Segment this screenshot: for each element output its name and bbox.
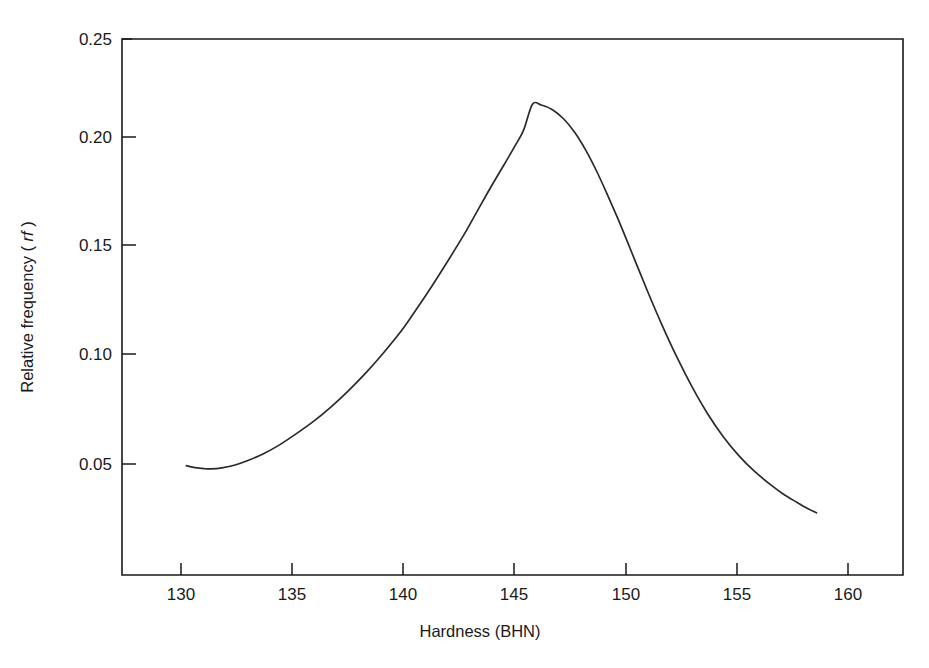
y-tick-label-0.10: 0.10 (79, 345, 112, 364)
y-tick-label-0.15: 0.15 (79, 236, 112, 255)
x-tick-label-140: 140 (389, 585, 417, 604)
y-tick-label-0.20: 0.20 (79, 128, 112, 147)
relative-frequency-chart: 0.25 0.20 0.15 0.10 0.05 130 135 140 145… (0, 0, 929, 668)
x-axis-title: Hardness (BHN) (419, 622, 540, 640)
y-axis-title: Relative frequency ( rf ) (18, 221, 36, 393)
frequency-distribution-curve (186, 102, 816, 512)
x-tick-label-160: 160 (834, 585, 862, 604)
y-tick-label-0.25: 0.25 (79, 30, 112, 49)
y-axis-tick-labels: 0.25 0.20 0.15 0.10 0.05 (79, 30, 112, 474)
y-axis-title-paren-open: ( (18, 246, 36, 252)
x-tick-label-155: 155 (723, 585, 751, 604)
figure-container: 0.25 0.20 0.15 0.10 0.05 130 135 140 145… (0, 0, 929, 668)
plot-frame (122, 39, 903, 575)
x-tick-label-150: 150 (612, 585, 640, 604)
y-axis-title-paren-close: ) (18, 221, 36, 227)
x-axis-tick-labels: 130 135 140 145 150 155 160 (167, 585, 862, 604)
x-tick-label-130: 130 (167, 585, 195, 604)
x-tick-label-145: 145 (500, 585, 528, 604)
y-axis-ticks (122, 39, 136, 464)
y-tick-label-0.05: 0.05 (79, 455, 112, 474)
x-tick-label-135: 135 (278, 585, 306, 604)
y-axis-title-plain: Relative frequency (18, 255, 36, 392)
x-axis-ticks (181, 563, 848, 575)
y-axis-title-group: Relative frequency ( rf ) (18, 221, 36, 393)
y-axis-title-italic: rf (18, 229, 36, 241)
